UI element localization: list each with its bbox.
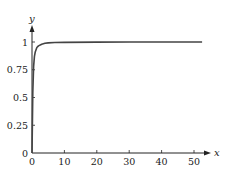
y-tick-label: 0.75 xyxy=(7,64,28,75)
y-tick-label: 0.5 xyxy=(13,92,28,103)
series-line xyxy=(32,42,202,153)
x-tick-label: 40 xyxy=(156,156,168,167)
series-group xyxy=(32,42,202,153)
x-axis-arrow-icon xyxy=(204,151,211,156)
y-tick-label: 0.25 xyxy=(7,120,28,131)
y-tick-label: 1 xyxy=(22,37,28,48)
x-tick-label: 30 xyxy=(123,156,135,167)
x-axis-label: x xyxy=(214,147,220,158)
x-tick-label: 0 xyxy=(29,156,35,167)
line-chart: 00.250.50.751 01020304050 x y xyxy=(0,0,228,172)
y-axis-ticks: 00.250.50.751 xyxy=(7,37,35,159)
y-tick-label: 0 xyxy=(22,148,28,159)
x-tick-label: 20 xyxy=(91,156,103,167)
y-axis-arrow-icon xyxy=(30,25,35,32)
y-axis-label: y xyxy=(28,13,35,24)
x-tick-label: 50 xyxy=(188,156,200,167)
x-tick-label: 10 xyxy=(58,156,70,167)
